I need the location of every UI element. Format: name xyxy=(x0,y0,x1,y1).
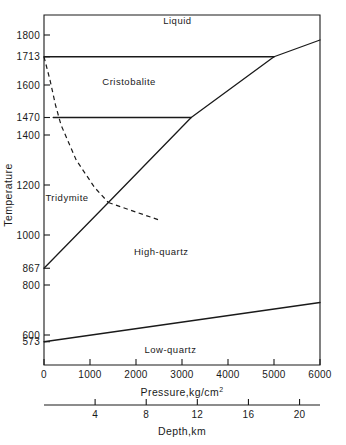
depth-tick-label-16: 16 xyxy=(243,409,255,420)
y-axis-title: Temperature xyxy=(2,163,14,226)
y-axis-tick-labels: 5736008008671000120014001470160017131800 xyxy=(17,30,41,348)
y-tick-label-1400: 1400 xyxy=(17,130,41,141)
phase-diagram-figure: 5736008008671000120014001470160017131800… xyxy=(0,0,346,445)
phase-line-low-high-quartz-inversion xyxy=(44,303,320,342)
y-tick-label-1000: 1000 xyxy=(17,230,41,241)
x-tick-label-6000: 6000 xyxy=(308,369,332,380)
x-tick-label-5000: 5000 xyxy=(262,369,286,380)
y-tick-label-867: 867 xyxy=(22,263,40,274)
x-tick-label-2000: 2000 xyxy=(124,369,148,380)
depth-tick-label-12: 12 xyxy=(191,409,203,420)
plot-frame xyxy=(44,15,320,365)
region-label-high-quartz: High-quartz xyxy=(134,246,189,257)
phase-boundary-lines xyxy=(44,40,320,342)
depth-tick-label-20: 20 xyxy=(294,409,306,420)
x-tick-label-4000: 4000 xyxy=(216,369,240,380)
y-tick-label-1470: 1470 xyxy=(17,112,41,123)
region-label-tridymite: Tridymite xyxy=(45,192,88,203)
depth-tick-label-4: 4 xyxy=(92,409,98,420)
y-tick-label-1800: 1800 xyxy=(17,30,41,41)
y-tick-label-1713: 1713 xyxy=(17,51,41,62)
phase-line-metastable-tridymite-boundary xyxy=(44,57,108,203)
chart-canvas: 5736008008671000120014001470160017131800… xyxy=(0,0,346,445)
depth-axis-title: Depth,km xyxy=(158,425,206,437)
y-tick-label-1600: 1600 xyxy=(17,80,41,91)
x-axis-title: Pressure,kg/cm2 xyxy=(141,386,224,398)
phase-line-metastable-branch-lower xyxy=(108,203,159,221)
region-label-cristobalite: Cristobalite xyxy=(102,76,156,87)
x-axis-tick-labels: 0100020003000400050006000 xyxy=(41,369,332,380)
region-label-liquid: Liquid xyxy=(163,15,191,26)
phase-region-labels: LiquidCristobaliteTridymiteHigh-quartzLo… xyxy=(45,15,196,355)
depth-axis-tick-labels: 48121620 xyxy=(92,409,305,420)
depth-tick-label-8: 8 xyxy=(143,409,149,420)
x-tick-label-3000: 3000 xyxy=(170,369,194,380)
y-tick-label-800: 800 xyxy=(22,280,40,291)
region-label-low-quartz: Low-quartz xyxy=(145,344,197,355)
y-tick-label-1200: 1200 xyxy=(17,180,41,191)
y-axis-ticks xyxy=(44,35,50,342)
phase-line-quartz-tridymite-cristobalite-boundary xyxy=(44,57,274,269)
x-axis-ticks xyxy=(44,359,320,365)
depth-axis-ticks xyxy=(95,399,299,405)
x-tick-label-1000: 1000 xyxy=(78,369,102,380)
x-tick-label-0: 0 xyxy=(41,369,47,380)
y-tick-label-600: 600 xyxy=(22,330,40,341)
phase-line-liquidus-above-5000 xyxy=(274,40,320,57)
